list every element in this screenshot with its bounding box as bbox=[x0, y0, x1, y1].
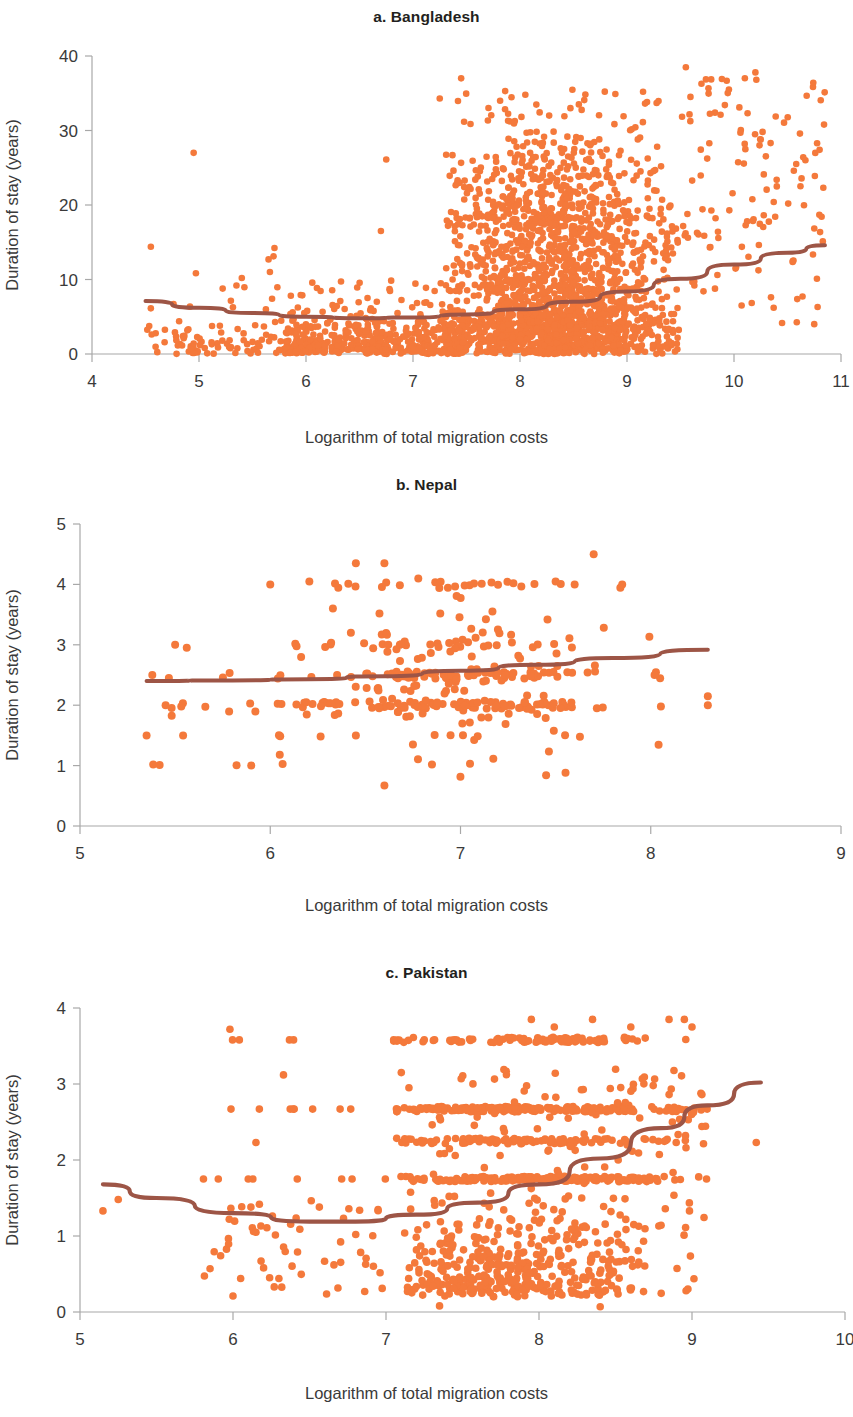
scatter-svg-pakistan: Duration of stay (years)012345678910 bbox=[0, 982, 853, 1382]
x-tick-label: 6 bbox=[301, 372, 310, 391]
panel-pakistan: c. Pakistan Duration of stay (years)0123… bbox=[0, 950, 853, 1417]
x-tick-label: 9 bbox=[687, 1330, 696, 1349]
y-tick-label: 2 bbox=[57, 696, 66, 715]
panel-title-b: b. Nepal bbox=[0, 460, 853, 494]
figure-root: a. Bangladesh Duration of stay (years)01… bbox=[0, 0, 853, 1417]
ylabel-b: Duration of stay (years) bbox=[3, 589, 21, 760]
scatter-points-b bbox=[143, 550, 712, 789]
y-tick-label: 4 bbox=[57, 575, 66, 594]
y-tick-label: 0 bbox=[69, 345, 78, 364]
y-tick-label: 3 bbox=[57, 636, 66, 655]
xlabel-c: Logarithm of total migration costs bbox=[0, 1384, 853, 1403]
x-tick-label: 5 bbox=[194, 372, 203, 391]
y-tick-label: 0 bbox=[57, 1303, 66, 1322]
x-tick-label: 4 bbox=[87, 372, 96, 391]
xlabel-a: Logarithm of total migration costs bbox=[0, 428, 853, 447]
x-tick-label: 6 bbox=[228, 1330, 237, 1349]
plot-area-bangladesh: Duration of stay (years)0102030404567891… bbox=[0, 26, 853, 426]
scatter-points-c bbox=[99, 1016, 760, 1311]
y-tick-label: 1 bbox=[57, 757, 66, 776]
plot-area-nepal: Duration of stay (years)01234556789 bbox=[0, 494, 853, 894]
ylabel-a: Duration of stay (years) bbox=[3, 119, 21, 290]
y-tick-label: 4 bbox=[57, 999, 66, 1018]
panel-bangladesh: a. Bangladesh Duration of stay (years)01… bbox=[0, 0, 853, 460]
scatter-svg-nepal: Duration of stay (years)01234556789 bbox=[0, 494, 853, 894]
x-tick-label: 7 bbox=[381, 1330, 390, 1349]
x-tick-label: 10 bbox=[836, 1330, 853, 1349]
x-tick-label: 9 bbox=[622, 372, 631, 391]
x-tick-label: 8 bbox=[646, 844, 655, 863]
x-tick-label: 6 bbox=[266, 844, 275, 863]
y-tick-label: 10 bbox=[59, 271, 78, 290]
y-tick-label: 0 bbox=[57, 817, 66, 836]
y-tick-label: 40 bbox=[59, 47, 78, 66]
panel-title-a: a. Bangladesh bbox=[0, 0, 853, 26]
x-tick-label: 7 bbox=[456, 844, 465, 863]
x-tick-label: 5 bbox=[75, 844, 84, 863]
panel-title-c: c. Pakistan bbox=[0, 950, 853, 982]
ylabel-c: Duration of stay (years) bbox=[3, 1074, 21, 1245]
y-tick-label: 3 bbox=[57, 1075, 66, 1094]
scatter-svg-bangladesh: Duration of stay (years)0102030404567891… bbox=[0, 26, 853, 426]
y-tick-label: 20 bbox=[59, 196, 78, 215]
y-tick-label: 30 bbox=[59, 122, 78, 141]
x-tick-label: 8 bbox=[515, 372, 524, 391]
x-tick-label: 11 bbox=[832, 372, 850, 391]
y-tick-label: 1 bbox=[57, 1227, 66, 1246]
panel-nepal: b. Nepal Duration of stay (years)0123455… bbox=[0, 460, 853, 950]
x-tick-label: 10 bbox=[725, 372, 744, 391]
x-tick-label: 5 bbox=[75, 1330, 84, 1349]
y-tick-label: 5 bbox=[57, 515, 66, 534]
x-tick-label: 7 bbox=[408, 372, 417, 391]
xlabel-b: Logarithm of total migration costs bbox=[0, 896, 853, 915]
plot-area-pakistan: Duration of stay (years)012345678910 bbox=[0, 982, 853, 1382]
x-tick-label: 9 bbox=[836, 844, 845, 863]
y-tick-label: 2 bbox=[57, 1151, 66, 1170]
x-tick-label: 8 bbox=[534, 1330, 543, 1349]
